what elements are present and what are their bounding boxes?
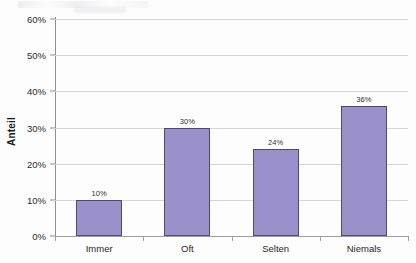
y-axis-tick-label: 0%: [32, 231, 46, 242]
y-axis-tick-label: 10%: [27, 194, 46, 205]
bar-value-label: 36%: [356, 95, 371, 104]
bar[interactable]: [164, 128, 210, 237]
bar[interactable]: [76, 200, 122, 236]
category-tick-mark: [408, 236, 409, 241]
y-axis-tick-label: 50%: [27, 50, 46, 61]
bar-value-label: 24%: [268, 138, 283, 147]
bar-slot: 30%: [143, 19, 231, 236]
category-tick-mark: [143, 236, 144, 241]
bar-slot: 24%: [232, 19, 320, 236]
category-tick-mark: [320, 236, 321, 241]
x-axis-category-labels: ImmerOftSeltenNiemals: [55, 243, 408, 261]
y-axis-tick-label: 40%: [27, 86, 46, 97]
bar-value-label: 30%: [180, 117, 195, 126]
bar-series: 10%30%24%36%: [55, 19, 408, 236]
y-axis-tick-label: 60%: [27, 14, 46, 25]
scan-artifact-secondary: [74, 7, 126, 13]
x-axis-category-label: Niemals: [347, 243, 381, 254]
y-axis-tick-label: 30%: [27, 122, 46, 133]
category-tick-mark: [232, 236, 233, 241]
y-axis-tick-labels: 0%10%20%30%40%50%60%: [0, 0, 52, 263]
x-axis-category-label: Immer: [86, 243, 113, 254]
bar-value-label: 10%: [92, 189, 107, 198]
category-tick-mark: [55, 236, 56, 241]
bar-chart: Anteil 0%10%20%30%40%50%60% 10%30%24%36%…: [0, 0, 416, 263]
y-axis-tick-label: 20%: [27, 158, 46, 169]
bar[interactable]: [253, 149, 299, 236]
bar-slot: 36%: [320, 19, 408, 236]
x-axis-category-label: Selten: [262, 243, 289, 254]
bar-slot: 10%: [55, 19, 143, 236]
bar[interactable]: [341, 106, 387, 236]
x-axis-category-label: Oft: [181, 243, 194, 254]
